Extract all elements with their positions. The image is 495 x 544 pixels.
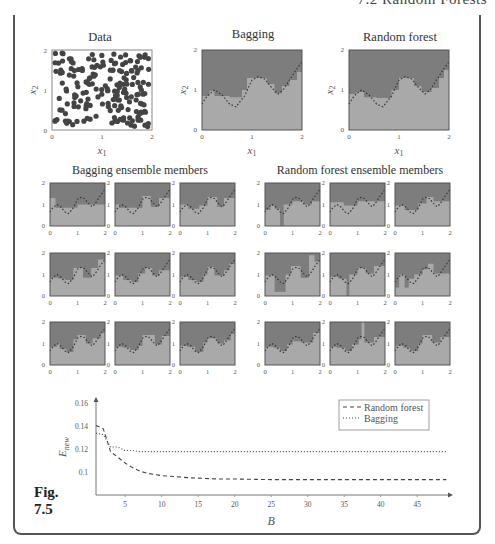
svg-text:45: 45 <box>413 500 421 509</box>
svg-text:1: 1 <box>107 201 110 208</box>
svg-text:0: 0 <box>322 292 325 299</box>
svg-text:x1: x1 <box>97 144 107 158</box>
svg-text:0: 0 <box>341 126 345 134</box>
rf-member-plot: 001122 <box>385 180 455 242</box>
svg-text:1: 1 <box>42 340 45 347</box>
data-plot-title: Data <box>50 30 150 45</box>
svg-text:2: 2 <box>107 319 110 325</box>
svg-text:2: 2 <box>233 229 236 236</box>
rf-member-plot: 001122 <box>255 319 325 381</box>
svg-text:5: 5 <box>123 500 127 509</box>
svg-text:2: 2 <box>387 180 390 186</box>
svg-text:1: 1 <box>107 340 110 347</box>
svg-text:2: 2 <box>172 180 175 186</box>
bagging-member-plot: 001122 <box>170 250 240 312</box>
rf-member-plot: 001122 <box>385 319 455 381</box>
svg-text:2: 2 <box>42 180 45 186</box>
svg-text:0: 0 <box>263 299 266 306</box>
svg-text:2: 2 <box>172 319 175 325</box>
svg-text:1: 1 <box>257 271 260 278</box>
svg-text:1: 1 <box>100 133 104 141</box>
svg-text:0: 0 <box>387 361 390 368</box>
svg-text:1: 1 <box>356 229 359 236</box>
svg-text:0: 0 <box>393 368 396 375</box>
svg-text:1: 1 <box>76 368 79 375</box>
svg-text:2: 2 <box>44 47 48 55</box>
svg-text:1: 1 <box>387 271 390 278</box>
svg-text:2: 2 <box>322 250 325 256</box>
svg-text:1: 1 <box>206 229 209 236</box>
figure-label: Fig. 7.5 <box>34 484 59 518</box>
svg-text:1: 1 <box>141 229 144 236</box>
bagging-decision-plot: 001122x1x2 <box>178 44 328 159</box>
svg-text:x2: x2 <box>28 86 40 96</box>
bagging-plot-title: Bagging <box>193 27 313 42</box>
svg-text:1: 1 <box>356 368 359 375</box>
svg-text:15: 15 <box>194 500 202 509</box>
svg-text:10: 10 <box>158 500 166 509</box>
svg-text:2: 2 <box>257 250 260 256</box>
svg-text:20: 20 <box>231 500 239 509</box>
svg-text:1: 1 <box>250 133 254 141</box>
svg-text:1: 1 <box>291 299 294 306</box>
bagging-member-plot: 001122 <box>105 180 175 242</box>
svg-text:0: 0 <box>257 361 260 368</box>
svg-text:1: 1 <box>397 133 401 141</box>
svg-text:2: 2 <box>194 46 198 54</box>
svg-text:1: 1 <box>172 201 175 208</box>
svg-text:1: 1 <box>42 201 45 208</box>
svg-text:1: 1 <box>421 299 424 306</box>
svg-text:B: B <box>268 514 276 528</box>
svg-text:1: 1 <box>356 299 359 306</box>
svg-text:0: 0 <box>328 368 331 375</box>
svg-text:0: 0 <box>48 299 51 306</box>
svg-text:2: 2 <box>448 229 451 236</box>
svg-text:1: 1 <box>257 201 260 208</box>
svg-text:2: 2 <box>387 319 390 325</box>
svg-text:Enew: Enew <box>56 437 71 458</box>
svg-text:0: 0 <box>257 292 260 299</box>
svg-text:2: 2 <box>387 250 390 256</box>
svg-text:1: 1 <box>42 271 45 278</box>
svg-text:0: 0 <box>172 222 175 229</box>
svg-text:40: 40 <box>377 500 385 509</box>
svg-text:0: 0 <box>387 222 390 229</box>
svg-text:0: 0 <box>347 133 351 141</box>
svg-text:1: 1 <box>291 368 294 375</box>
svg-text:2: 2 <box>448 368 451 375</box>
svg-text:0: 0 <box>393 229 396 236</box>
svg-text:0: 0 <box>48 368 51 375</box>
rf-member-plot: 001122 <box>320 250 390 312</box>
svg-text:0: 0 <box>50 133 54 141</box>
svg-text:0.1: 0.1 <box>79 468 89 477</box>
svg-text:1: 1 <box>387 201 390 208</box>
rf-member-plot: 001122 <box>385 250 455 312</box>
svg-text:2: 2 <box>300 133 304 141</box>
svg-text:0: 0 <box>263 229 266 236</box>
rf-members-title: Random forest ensemble members <box>260 163 460 178</box>
svg-text:Bagging: Bagging <box>364 413 398 424</box>
svg-text:0: 0 <box>107 292 110 299</box>
rf-member-plot: 001122 <box>320 180 390 242</box>
svg-text:0.16: 0.16 <box>75 399 88 408</box>
data-scatter-plot: 001122x1x2 <box>28 44 178 159</box>
rf-member-plot: 001122 <box>255 250 325 312</box>
svg-text:0: 0 <box>48 229 51 236</box>
svg-text:0: 0 <box>257 222 260 229</box>
svg-text:1: 1 <box>141 299 144 306</box>
svg-text:2: 2 <box>107 250 110 256</box>
bagging-member-plot: 001122 <box>40 319 110 381</box>
svg-text:0: 0 <box>44 127 48 135</box>
svg-text:0: 0 <box>322 361 325 368</box>
svg-text:2: 2 <box>341 46 345 54</box>
svg-text:30: 30 <box>304 500 312 509</box>
svg-text:0: 0 <box>263 368 266 375</box>
svg-text:0: 0 <box>42 361 45 368</box>
svg-text:2: 2 <box>233 299 236 306</box>
svg-text:0: 0 <box>328 229 331 236</box>
svg-text:x2: x2 <box>178 86 190 96</box>
svg-text:1: 1 <box>322 271 325 278</box>
svg-text:2: 2 <box>42 319 45 325</box>
svg-text:0: 0 <box>172 292 175 299</box>
svg-text:2: 2 <box>322 180 325 186</box>
